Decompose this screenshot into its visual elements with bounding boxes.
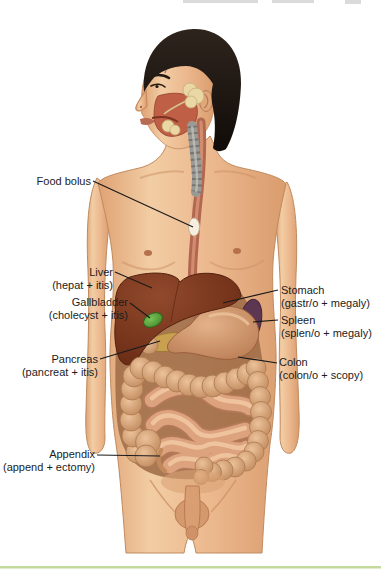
label-text: Food bolus (37, 175, 91, 187)
label-appendix: Appendix (append + ectomy) (3, 448, 95, 474)
label-word-elements: (cholecyst + itis) (49, 309, 128, 322)
label-text: Stomach (281, 284, 324, 296)
textbook-figure-page: Food bolus Liver (hepat + itis) Gallblad… (0, 0, 381, 575)
label-text: Spleen (281, 314, 315, 326)
label-text: Pancreas (52, 353, 98, 365)
label-word-elements: (hepat + itis) (52, 279, 113, 292)
label-text: Liver (89, 266, 113, 278)
label-stomach: Stomach (gastr/o + megaly) (281, 284, 370, 310)
right-nipple (233, 248, 241, 254)
label-food-bolus: Food bolus (37, 175, 91, 188)
label-word-elements: (colon/o + scopy) (279, 369, 363, 382)
bottom-rule (0, 566, 381, 569)
nostril (140, 106, 142, 108)
food-bolus-shape (189, 218, 200, 236)
left-nipple (144, 250, 152, 256)
label-pancreas: Pancreas (pancreat + itis) (22, 353, 98, 379)
label-spleen: Spleen (splen/o + megaly) (281, 314, 372, 340)
label-gallbladder: Gallbladder (cholecyst + itis) (49, 296, 128, 322)
trachea (192, 126, 197, 192)
penis-tip (186, 526, 198, 540)
label-text: Colon (279, 356, 308, 368)
label-word-elements: (pancreat + itis) (22, 366, 98, 379)
label-colon: Colon (colon/o + scopy) (279, 356, 363, 382)
label-text: Gallbladder (72, 296, 128, 308)
label-word-elements: (append + ectomy) (3, 461, 95, 474)
label-liver: Liver (hepat + itis) (52, 266, 113, 292)
label-word-elements: (splen/o + megaly) (281, 327, 372, 340)
iris (155, 85, 158, 88)
label-word-elements: (gastr/o + megaly) (281, 297, 370, 310)
label-text: Appendix (49, 448, 95, 460)
